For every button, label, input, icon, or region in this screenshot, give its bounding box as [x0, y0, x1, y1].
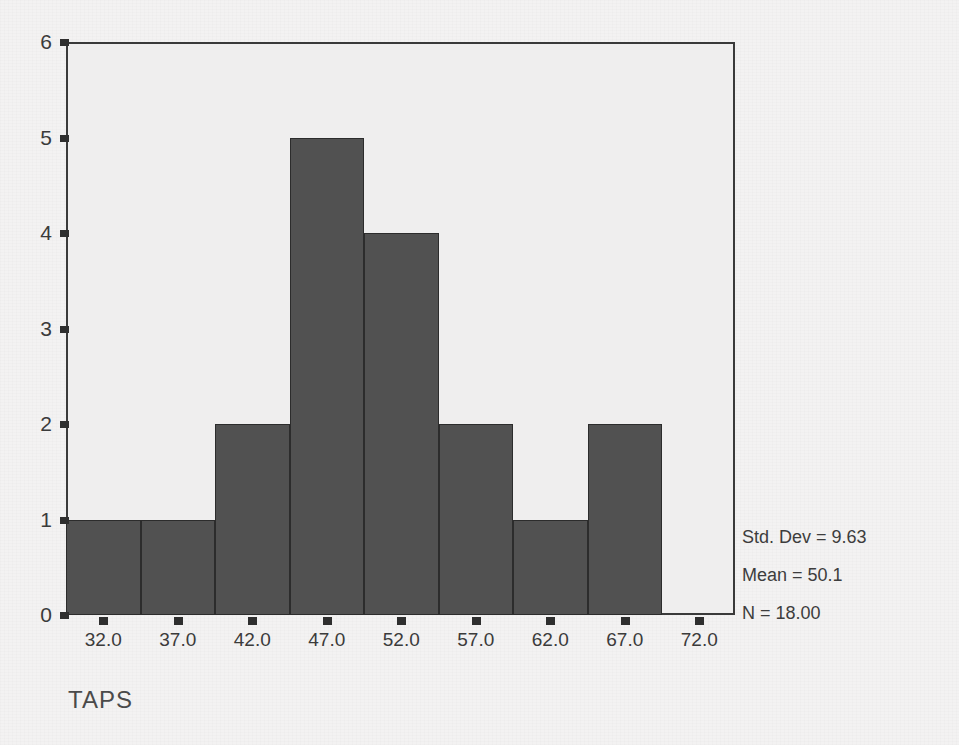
y-axis-tick	[60, 421, 69, 428]
y-axis-tick	[60, 230, 69, 237]
stat-mean: Mean = 50.1	[742, 566, 942, 584]
x-axis-tick-label: 42.0	[234, 630, 271, 649]
y-axis-tick-label: 3	[40, 318, 52, 339]
histogram-bar	[588, 424, 663, 615]
y-axis-tick-label: 6	[40, 31, 52, 52]
x-axis-tick	[472, 617, 481, 625]
x-axis-tick-label: 72.0	[681, 630, 718, 649]
x-axis-tick	[248, 617, 257, 625]
x-axis-tick	[174, 617, 183, 625]
plot-area	[66, 42, 735, 615]
histogram-bar	[290, 138, 365, 616]
stat-n: N = 18.00	[742, 604, 942, 622]
x-axis-tick-label: 67.0	[606, 630, 643, 649]
x-axis-tick-label: 57.0	[457, 630, 494, 649]
x-axis-tick-label: 62.0	[532, 630, 569, 649]
histogram-bar	[66, 520, 141, 616]
histogram-bar	[439, 424, 514, 615]
x-axis: 32.037.042.047.052.057.062.067.072.0	[0, 615, 959, 675]
x-axis-tick-label: 37.0	[159, 630, 196, 649]
x-axis-tick	[695, 617, 704, 625]
histogram-bar	[364, 233, 439, 615]
x-axis-tick	[323, 617, 332, 625]
histogram-bar	[513, 520, 588, 616]
x-axis-title: TAPS	[68, 686, 133, 714]
y-axis-tick-label: 4	[40, 222, 52, 243]
y-axis-tick	[60, 135, 69, 142]
x-axis-tick-label: 32.0	[85, 630, 122, 649]
y-axis-tick-label: 1	[40, 509, 52, 530]
x-axis-tick	[397, 617, 406, 625]
y-axis-tick	[60, 517, 69, 524]
stat-std-dev: Std. Dev = 9.63	[742, 528, 942, 546]
y-axis-tick	[60, 326, 69, 333]
histogram-bar	[215, 424, 290, 615]
x-axis-tick	[546, 617, 555, 625]
x-axis-tick	[99, 617, 108, 625]
statistics-annotation: Std. Dev = 9.63 Mean = 50.1 N = 18.00	[742, 528, 942, 622]
histogram-figure: 0123456 32.037.042.047.052.057.062.067.0…	[0, 0, 959, 745]
histogram-bar	[141, 520, 216, 616]
y-axis-tick-label: 2	[40, 413, 52, 434]
x-axis-tick-label: 52.0	[383, 630, 420, 649]
x-axis-tick	[621, 617, 630, 625]
y-axis-tick	[60, 39, 69, 46]
x-axis-tick-label: 47.0	[308, 630, 345, 649]
y-axis-tick-label: 5	[40, 127, 52, 148]
